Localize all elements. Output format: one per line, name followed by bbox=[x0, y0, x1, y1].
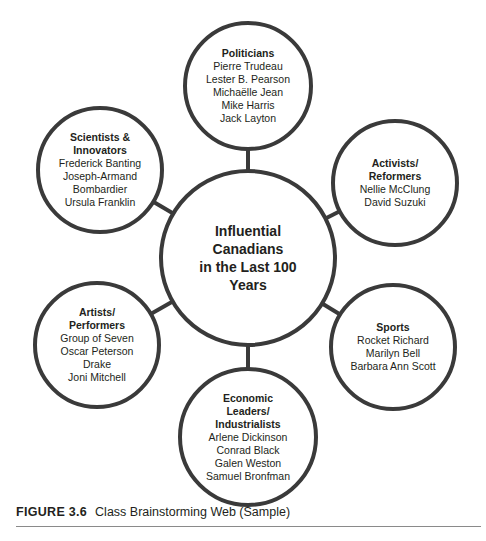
node-item: Samuel Bronfman bbox=[206, 470, 290, 483]
node-item: Nellie McClung bbox=[360, 183, 431, 196]
node-item: Galen Weston bbox=[215, 457, 281, 470]
node-title: Sports bbox=[376, 321, 409, 334]
node-item: Oscar Peterson bbox=[61, 345, 134, 358]
node-item: Conrad Black bbox=[216, 444, 279, 457]
node-title: Leaders/ bbox=[226, 405, 269, 418]
node-item: Bombardier bbox=[73, 183, 127, 196]
node-title: Reformers bbox=[369, 170, 422, 183]
figure-title: Class Brainstorming Web (Sample) bbox=[95, 505, 290, 519]
node-title: Performers bbox=[69, 319, 125, 332]
node-item: Lester B. Pearson bbox=[206, 73, 290, 86]
node-item: Arlene Dickinson bbox=[209, 431, 288, 444]
node-item: Joni Mitchell bbox=[68, 371, 126, 384]
node-item: Rocket Richard bbox=[357, 334, 429, 347]
node-item: Ursula Franklin bbox=[65, 196, 136, 209]
central-topic-line: Canadians bbox=[213, 240, 284, 258]
node-item: Joseph-Armand bbox=[63, 170, 137, 183]
node-item: Pierre Trudeau bbox=[213, 60, 282, 73]
node-title: Scientists & bbox=[70, 131, 130, 144]
node-sports: SportsRocket RichardMarilyn BellBarbara … bbox=[331, 285, 455, 409]
node-title: Innovators bbox=[73, 144, 127, 157]
caption-divider bbox=[16, 526, 481, 527]
node-artists-performers: Artists/PerformersGroup of SevenOscar Pe… bbox=[35, 283, 159, 407]
node-item: Jack Layton bbox=[220, 112, 276, 125]
node-item: Group of Seven bbox=[60, 332, 134, 345]
node-title: Artists/ bbox=[79, 306, 115, 319]
node-title: Politicians bbox=[222, 47, 275, 60]
central-topic-line: in the Last 100 bbox=[199, 258, 296, 276]
figure-caption: FIGURE 3.6Class Brainstorming Web (Sampl… bbox=[16, 505, 290, 519]
node-item: Mike Harris bbox=[221, 99, 274, 112]
node-title: Economic bbox=[223, 392, 273, 405]
node-item: David Suzuki bbox=[364, 196, 425, 209]
node-item: Barbara Ann Scott bbox=[350, 360, 435, 373]
figure-label: FIGURE 3.6 bbox=[16, 505, 87, 519]
node-title: Industrialists bbox=[215, 418, 280, 431]
node-economic-leaders-industrialists: EconomicLeaders/IndustrialistsArlene Dic… bbox=[180, 369, 316, 505]
central-topic: InfluentialCanadiansin the Last 100Years bbox=[161, 171, 335, 345]
central-topic-line: Years bbox=[229, 276, 266, 294]
node-title: Activists/ bbox=[372, 157, 419, 170]
node-scientists-innovators: Scientists &InnovatorsFrederick BantingJ… bbox=[38, 108, 162, 232]
node-item: Michaëlle Jean bbox=[213, 86, 283, 99]
node-item: Marilyn Bell bbox=[366, 347, 420, 360]
node-item: Drake bbox=[83, 358, 111, 371]
node-activists-reformers: Activists/ReformersNellie McClungDavid S… bbox=[333, 121, 457, 245]
node-item: Frederick Banting bbox=[59, 157, 141, 170]
node-politicians: PoliticiansPierre TrudeauLester B. Pears… bbox=[185, 23, 311, 149]
central-topic-line: Influential bbox=[215, 222, 281, 240]
